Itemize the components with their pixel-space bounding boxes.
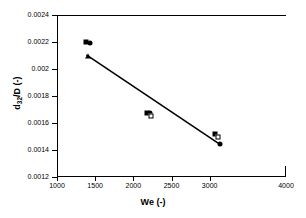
- y-axis-title-subscript: 32: [16, 97, 23, 104]
- x-axis-title: We (-): [0, 197, 306, 207]
- marker-layer: [0, 0, 306, 218]
- data-point-circle: [217, 142, 222, 147]
- data-point-square-open: [215, 134, 220, 139]
- chart-figure: 0.00120.00140.00160.00180.0020.00220.002…: [0, 0, 306, 218]
- y-axis-title-rest: /D (-): [12, 76, 22, 97]
- data-point-square-open: [148, 113, 153, 118]
- y-axis-title: d32/D (-): [12, 28, 22, 158]
- data-point-triangle: [85, 53, 91, 58]
- y-axis-title-base: d: [12, 104, 22, 110]
- data-point-circle: [87, 40, 92, 45]
